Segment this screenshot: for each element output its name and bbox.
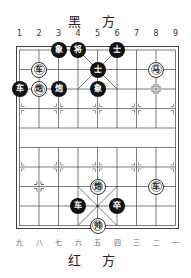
red-side-title: 红 方 [0,250,191,269]
black-advisor-piece[interactable]: 士 [109,42,125,58]
bottom-column-labels: 九 八 七 六 五 四 三 二 一 [0,237,191,249]
column-label: 七 [52,237,66,247]
column-label: 二 [149,237,163,247]
black-chariot-piece[interactable]: 车 [70,198,86,214]
red-horse-piece[interactable]: 马 [148,62,164,78]
red-cannon-piece[interactable]: 炮 [31,81,47,97]
black-general-piece[interactable]: 将 [70,42,86,58]
black-chariot-piece[interactable]: 车 [12,81,28,97]
black-advisor-piece[interactable]: 士 [90,62,106,78]
column-label: 一 [169,237,183,247]
red-chariot-piece[interactable]: 车 [31,62,47,78]
black-elephant-piece[interactable]: 象 [90,81,106,97]
red-general-piece[interactable]: 帅 [90,218,106,234]
column-label: 六 [71,237,85,247]
column-label: 八 [32,237,46,247]
black-cannon-piece[interactable]: 炮 [51,81,67,97]
column-label: 五 [91,237,105,247]
black-elephant-piece[interactable]: 象 [51,42,67,58]
black-soldier-piece[interactable]: 卒 [109,198,125,214]
red-chariot-piece[interactable]: 车 [148,179,164,195]
column-label: 四 [110,237,124,247]
column-label: 九 [13,237,27,247]
red-cannon-piece[interactable]: 炮 [90,179,106,195]
column-label: 三 [130,237,144,247]
